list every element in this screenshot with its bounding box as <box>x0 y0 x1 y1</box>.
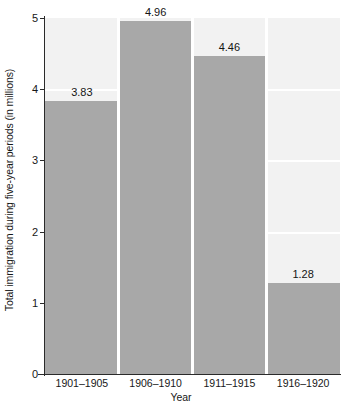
bar-1901-1905[interactable] <box>45 101 119 374</box>
y-tick-label-4: 4 <box>32 83 38 95</box>
bar-separator-3 <box>265 18 268 374</box>
bar-separator-2 <box>191 18 194 374</box>
bar-chart: Total immigration during five-year perio… <box>0 0 348 412</box>
x-tick-label-1916-1920: 1916–1920 <box>277 377 330 389</box>
value-label-1916-1920: 1.28 <box>292 268 313 280</box>
x-axis-line <box>38 374 341 375</box>
y-tick-label-1: 1 <box>32 297 38 309</box>
bar-1911-1915[interactable] <box>193 56 267 374</box>
y-tick-label-2: 2 <box>32 226 38 238</box>
value-label-1901-1905: 3.83 <box>71 86 92 98</box>
value-label-1906-1910: 4.96 <box>145 6 166 18</box>
x-axis-title-text: Year <box>170 391 191 403</box>
x-tick-label-1906-1910: 1906–1910 <box>129 377 182 389</box>
plot-area <box>45 18 340 374</box>
y-axis-line <box>44 16 45 376</box>
y-axis-title-text: Total immigration during five-year perio… <box>3 69 15 311</box>
x-tick-label-1911-1915: 1911–1915 <box>203 377 255 389</box>
x-axis-title: Year <box>0 391 348 403</box>
bar-1906-1910[interactable] <box>119 21 193 374</box>
x-tick-label-1901-1905: 1901–1905 <box>56 377 109 389</box>
y-axis-tick-labels: 0 1 2 3 4 5 <box>20 0 42 412</box>
bar-separator-1 <box>117 18 120 374</box>
bar-1916-1920[interactable] <box>266 283 340 374</box>
y-tick-label-3: 3 <box>32 154 38 166</box>
y-tick-label-5: 5 <box>32 12 38 24</box>
y-axis-title: Total immigration during five-year perio… <box>0 0 18 380</box>
value-label-1911-1915: 4.46 <box>219 41 240 53</box>
